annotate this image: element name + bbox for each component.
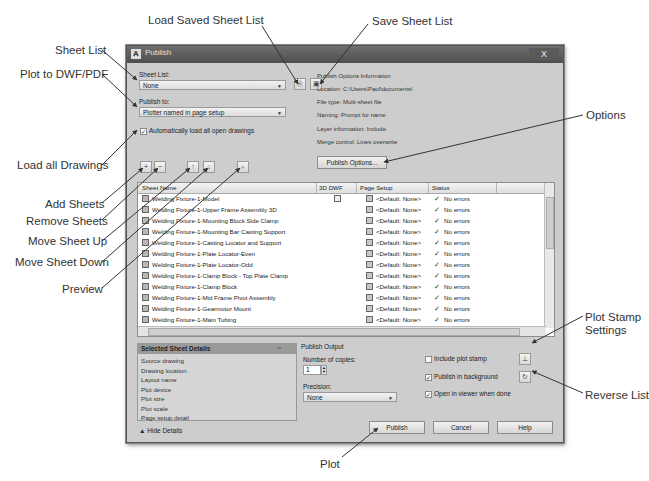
col-status[interactable]: Status [432, 184, 450, 191]
page-setup-icon [366, 195, 373, 202]
page-setup-icon [366, 261, 373, 268]
publish-to-dropdown[interactable]: Plotter named in page setup ▼ [139, 107, 286, 117]
include-plot-stamp-checkbox[interactable] [425, 356, 432, 363]
cancel-button[interactable]: Cancel [433, 421, 489, 434]
page-setup-value[interactable]: <Default: None> [376, 293, 421, 302]
scrollbar-thumb[interactable] [148, 328, 520, 336]
open-in-viewer-checkbox[interactable]: ✓ [425, 391, 432, 398]
callout-options: Options [586, 109, 626, 122]
page-setup-icon [366, 305, 373, 312]
callout-move-sheet-up: Move Sheet Up [28, 235, 107, 248]
table-row[interactable]: Welding Fixture-1-Clamp Block - Top Plat… [138, 271, 546, 280]
auto-load-checkbox[interactable]: ✓ [140, 128, 147, 135]
page-setup-value[interactable]: <Default: None> [376, 260, 421, 269]
publish-in-background-checkbox[interactable]: ✓ [425, 374, 432, 381]
sheet-list-dropdown[interactable]: None ▼ [139, 80, 286, 90]
page-setup-icon [366, 206, 373, 213]
publish-to-label: Publish to: [139, 98, 169, 105]
move-sheet-down-button[interactable]: ↓ [203, 161, 215, 173]
copies-stepper[interactable]: ▲▼ [321, 365, 327, 375]
move-sheet-up-button[interactable]: ↑ [187, 161, 199, 173]
table-row[interactable]: Welding Fixture-1-Mounting Bar Casting S… [138, 227, 546, 236]
table-row[interactable]: Welding Fixture-1-Clamp Block<Default: N… [138, 282, 546, 291]
info-location: Location: C:\Users\Paul\documents\ [317, 86, 413, 92]
page-setup-icon [366, 283, 373, 290]
page-setup-value[interactable]: <Default: None> [376, 249, 421, 258]
collapse-up-icon: ▲ [139, 427, 147, 434]
info-naming: Naming: Prompt for name [317, 112, 386, 118]
page-setup-value[interactable]: <Default: None> [376, 304, 421, 313]
table-row[interactable]: Welding Fixture-1-Casting Locator and Su… [138, 238, 546, 247]
add-sheets-button[interactable]: + [140, 161, 152, 173]
detail-item: Plot size [141, 395, 164, 402]
page-setup-value[interactable]: <Default: None> [376, 282, 421, 291]
hide-details-link[interactable]: ▲ Hide Details [139, 427, 182, 434]
details-header: Selected Sheet Details ▫▫ [138, 344, 296, 354]
table-row[interactable]: Welding Fixture-1-Model<Default: None>✓N… [138, 194, 546, 203]
table-header: Sheet Name 3D DWF Page Setup Status [138, 183, 546, 194]
checkmark-icon: ✓ [434, 194, 440, 203]
status-value: No errors [444, 304, 470, 313]
checkmark-icon: ✓ [434, 227, 440, 236]
title-bar[interactable]: A Publish X [127, 46, 563, 63]
3d-dwf-checkbox[interactable] [334, 195, 341, 202]
sheet-list-value: None [143, 82, 159, 89]
sheet-name: Welding Fixture-1-Mid Frame Pivot Assemb… [152, 293, 276, 302]
sheet-icon [142, 217, 149, 224]
help-button[interactable]: Help [497, 421, 553, 434]
publish-button[interactable]: Publish [369, 421, 425, 434]
page-setup-value[interactable]: <Default: None> [376, 216, 421, 225]
table-row[interactable]: Welding Fixture-1-Gearmotor Mount<Defaul… [138, 304, 546, 313]
info-layer-information: Layer information: Include [317, 126, 386, 132]
page-setup-value[interactable]: <Default: None> [376, 227, 421, 236]
horizontal-scrollbar[interactable] [138, 326, 546, 336]
table-row[interactable]: Welding Fixture-1-Plate Locator-Odd<Defa… [138, 260, 546, 269]
scrollbar-thumb[interactable] [546, 197, 554, 249]
callout-preview: Preview [62, 283, 103, 296]
sheet-icon [142, 272, 149, 279]
table-row[interactable]: Welding Fixture-1-Main Tubing<Default: N… [138, 315, 546, 324]
table-row[interactable]: Welding Fixture-1-Mid Frame Pivot Assemb… [138, 293, 546, 302]
auto-load-label: Automatically load all open drawings [149, 127, 254, 134]
load-sheet-list-button[interactable]: ⎘ [294, 78, 306, 90]
detail-item: Source drawing [141, 357, 184, 364]
reverse-list-button[interactable]: ↻ [519, 371, 531, 383]
open-in-viewer-label: Open in viewer when done [434, 390, 511, 397]
reverse-list-icon: ↻ [522, 373, 528, 380]
page-setup-icon [366, 250, 373, 257]
precision-dropdown[interactable]: None ▼ [303, 392, 397, 402]
callout-save-sheet-list: Save Sheet List [372, 15, 453, 28]
sheet-icon [142, 316, 149, 323]
checkmark-icon: ✓ [434, 249, 440, 258]
publish-options-button[interactable]: Publish Options... [317, 156, 387, 169]
checkmark-icon: ✓ [434, 260, 440, 269]
details-header-icons[interactable]: ▫▫ [277, 345, 293, 353]
callout-plot: Plot [320, 458, 340, 471]
sheet-list-label: Sheet List: [139, 71, 170, 78]
table-row[interactable]: Welding Fixture-1-Upper Frame Assembly 3… [138, 205, 546, 214]
copies-input[interactable]: 1 [303, 365, 321, 375]
publish-output-heading: Publish Output [301, 343, 344, 350]
sheet-icon [142, 305, 149, 312]
selected-sheet-details-panel: Selected Sheet Details ▫▫ Source drawing… [137, 343, 297, 421]
publish-to-value: Plotter named in page setup [143, 109, 224, 116]
sheet-icon [142, 283, 149, 290]
col-sheet-name[interactable]: Sheet Name [142, 184, 176, 191]
remove-sheets-button[interactable]: − [154, 161, 166, 173]
col-page-setup[interactable]: Page Setup [360, 184, 392, 191]
col-3d-dwf[interactable]: 3D DWF [319, 184, 343, 191]
table-row[interactable]: Welding Fixture-1-Plate Locator-Even<Def… [138, 249, 546, 258]
close-button[interactable]: X [529, 48, 559, 60]
status-value: No errors [444, 205, 470, 214]
preview-button[interactable]: ⌕ [237, 161, 249, 173]
page-setup-value[interactable]: <Default: None> [376, 315, 421, 324]
vertical-scrollbar[interactable] [544, 183, 554, 328]
callout-add-sheets: Add Sheets [45, 198, 104, 211]
page-setup-value[interactable]: <Default: None> [376, 271, 421, 280]
table-row[interactable]: Welding Fixture-1-Mounting Block Side Cl… [138, 216, 546, 225]
page-setup-value[interactable]: <Default: None> [376, 205, 421, 214]
plot-stamp-settings-button[interactable]: ⊥ [519, 353, 531, 365]
page-setup-value[interactable]: <Default: None> [376, 238, 421, 247]
page-setup-value[interactable]: <Default: None> [376, 194, 421, 203]
sheet-name: Welding Fixture-1-Plate Locator-Even [152, 249, 255, 258]
